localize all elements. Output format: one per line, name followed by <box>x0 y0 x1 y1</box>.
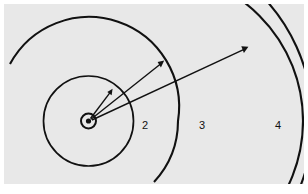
arrow-head-2 <box>158 61 165 68</box>
transition-arrow-to-shell-3 <box>92 46 248 120</box>
shell-arc-3 <box>154 4 303 184</box>
bohr-model-diagram-panel: 2 3 4 <box>4 4 304 184</box>
transition-arrow-to-shell-2 <box>91 61 164 120</box>
arrow-shaft-2 <box>91 64 160 119</box>
shell-label-2: 2 <box>142 119 148 131</box>
shell-label-3: 3 <box>199 119 205 131</box>
shell-label-4: 4 <box>275 119 281 131</box>
nucleus-dot <box>86 118 91 123</box>
transition-arrow-to-shell-1 <box>91 89 113 119</box>
figure-root: 2 3 4 <box>0 0 308 194</box>
orbit-diagram-svg: 2 3 4 <box>4 4 304 184</box>
shell-arc-2 <box>10 17 179 182</box>
shell-arc-4 <box>256 4 304 184</box>
